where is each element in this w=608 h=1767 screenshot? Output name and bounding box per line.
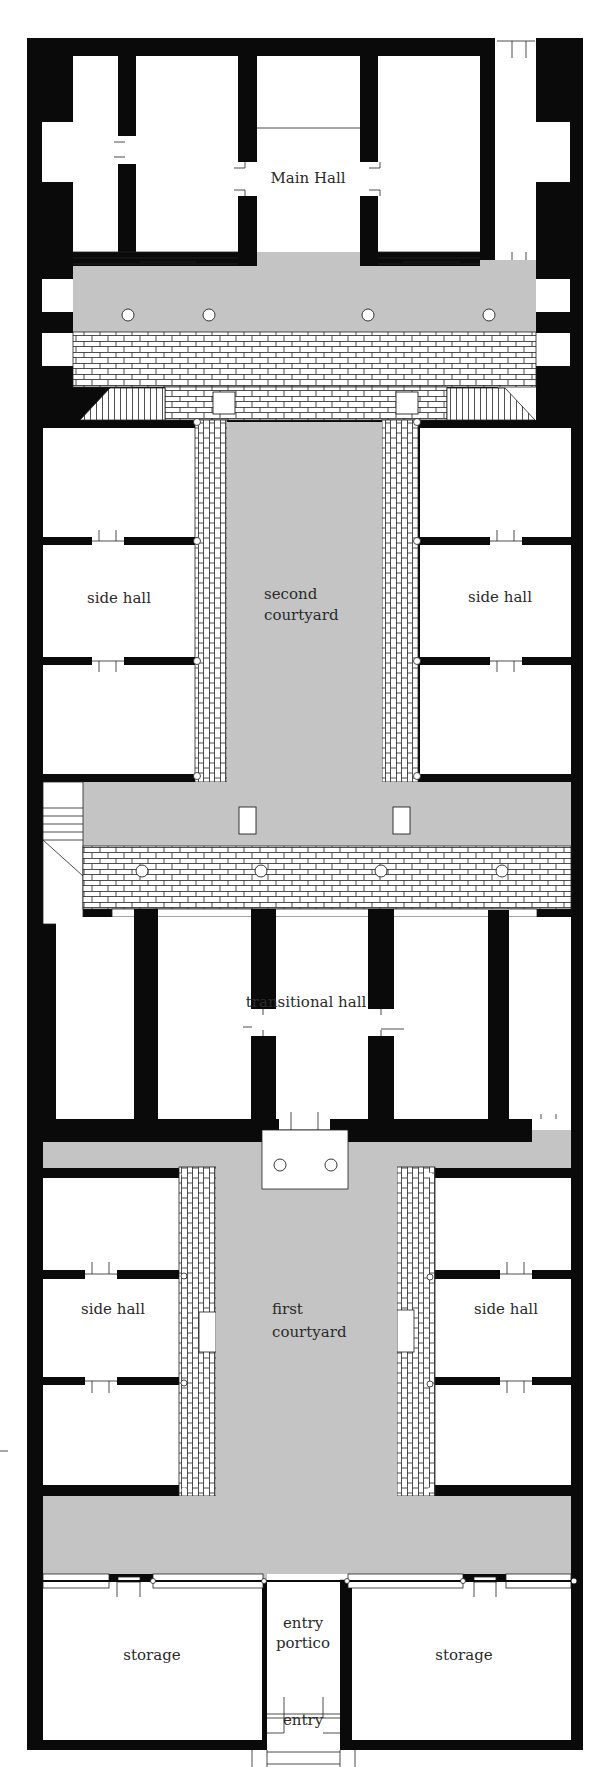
column-icon (274, 1159, 286, 1171)
storage-entry-section (43, 1574, 577, 1767)
label-first-courtyard-1: first (272, 1300, 303, 1319)
column-icon (483, 309, 495, 321)
label-first-courtyard-2: courtyard (272, 1323, 346, 1342)
temple-floor-plan (0, 0, 608, 1767)
column-icon (362, 309, 374, 321)
first-courtyard-section (43, 1130, 571, 1580)
column-icon (375, 865, 387, 877)
label-main-hall: Main Hall (258, 169, 358, 188)
pillar-base (393, 807, 410, 834)
column-icon (255, 865, 267, 877)
label-side-hall-upper-left: side hall (69, 589, 169, 608)
main-portico-floor (73, 266, 536, 332)
column-icon (136, 865, 148, 877)
altar-base (262, 1130, 348, 1189)
label-storage-right: storage (414, 1646, 514, 1665)
label-transitional-hall: transitional hall (236, 993, 376, 1012)
pillar-base (213, 392, 235, 414)
column-icon (203, 309, 215, 321)
label-second-courtyard-1: second (264, 585, 317, 604)
label-side-hall-upper-right: side hall (450, 588, 550, 607)
label-entry-portico-1: entry (266, 1614, 340, 1633)
label-entry-portico-2: portico (266, 1634, 340, 1653)
column-icon (496, 865, 508, 877)
label-storage-left: storage (102, 1646, 202, 1665)
transitional-hall-section (43, 909, 571, 1142)
middle-portico (43, 782, 571, 924)
first-courtyard-floor (216, 1142, 397, 1496)
label-side-hall-lower-right: side hall (456, 1300, 556, 1319)
label-second-courtyard-2: courtyard (264, 606, 338, 625)
column-icon (122, 309, 134, 321)
right-stair (447, 388, 535, 420)
pillar-base (396, 392, 418, 414)
label-entry: entry (266, 1711, 340, 1730)
main-paving (73, 332, 536, 387)
pillar-base (239, 807, 256, 834)
column-icon (325, 1159, 337, 1171)
label-side-hall-lower-left: side hall (63, 1300, 163, 1319)
